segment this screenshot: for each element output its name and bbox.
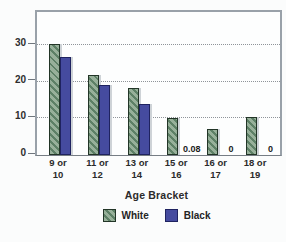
legend: White Black [35,206,278,224]
x-label-line1: 16 or [195,157,237,169]
bar-black [139,104,150,155]
x-label-line1: 18 or [234,157,276,169]
x-axis-label-18-or-19: 18 or19 [234,157,276,180]
legend-label-black: Black [184,210,211,221]
bar-white [167,118,178,155]
x-label-line1: 13 or [116,157,158,169]
black-value-label: 0 [257,144,284,154]
bar-black [60,57,71,155]
gridline-30 [37,44,280,45]
x-label-line1: 15 or [155,157,197,169]
bar-white [128,88,139,155]
y-axis-label-20: 20 [4,74,26,86]
legend-swatch-black [165,209,178,222]
bar-group-13-or-14 [128,12,150,155]
plot-area: 0.0800 [35,10,282,156]
y-axis-label-0: 0 [4,147,26,159]
bar-white [207,129,218,155]
x-axis-label-15-or-16: 15 or16 [155,157,197,180]
x-label-line2: 12 [76,169,118,181]
y-axis-label-30: 30 [4,37,26,49]
x-label-line2: 16 [155,169,197,181]
black-value-label: 0.08 [178,144,205,154]
bar-chart: 0.0800 Age Bracket White Black 01020309 … [0,0,286,242]
bar-group-11-or-12 [88,12,110,155]
x-axis-label-11-or-12: 11 or12 [76,157,118,180]
bar-white [88,75,99,155]
bar-group-15-or-16: 0.08 [167,12,189,155]
y-axis-tick-0 [28,153,35,154]
legend-item-white: White [103,209,149,222]
black-value-label: 0 [218,144,245,154]
x-label-line1: 11 or [76,157,118,169]
x-label-line2: 10 [37,169,79,181]
bar-group-16-or-17: 0 [207,12,229,155]
legend-swatch-white [103,209,116,222]
y-axis-label-10: 10 [4,110,26,122]
bar-group-9-or-10 [49,12,71,155]
bar-white [49,44,60,155]
x-label-line2: 14 [116,169,158,181]
bar-group-18-or-19: 0 [246,12,268,155]
legend-item-black: Black [165,209,211,222]
y-axis-tick-30 [28,43,35,44]
x-axis-label-9-or-10: 9 or10 [37,157,79,180]
x-axis-label-13-or-14: 13 or14 [116,157,158,180]
legend-label-white: White [122,210,149,221]
bar-white [246,117,257,155]
x-label-line2: 19 [234,169,276,181]
x-axis-title: Age Bracket [35,189,278,201]
x-axis-label-16-or-17: 16 or17 [195,157,237,180]
gridline-10 [37,117,280,118]
y-axis-tick-20 [28,79,35,80]
y-axis-tick-10 [28,116,35,117]
x-label-line1: 9 or [37,157,79,169]
gridline-20 [37,81,280,82]
x-label-line2: 17 [195,169,237,181]
bar-black [99,85,110,155]
